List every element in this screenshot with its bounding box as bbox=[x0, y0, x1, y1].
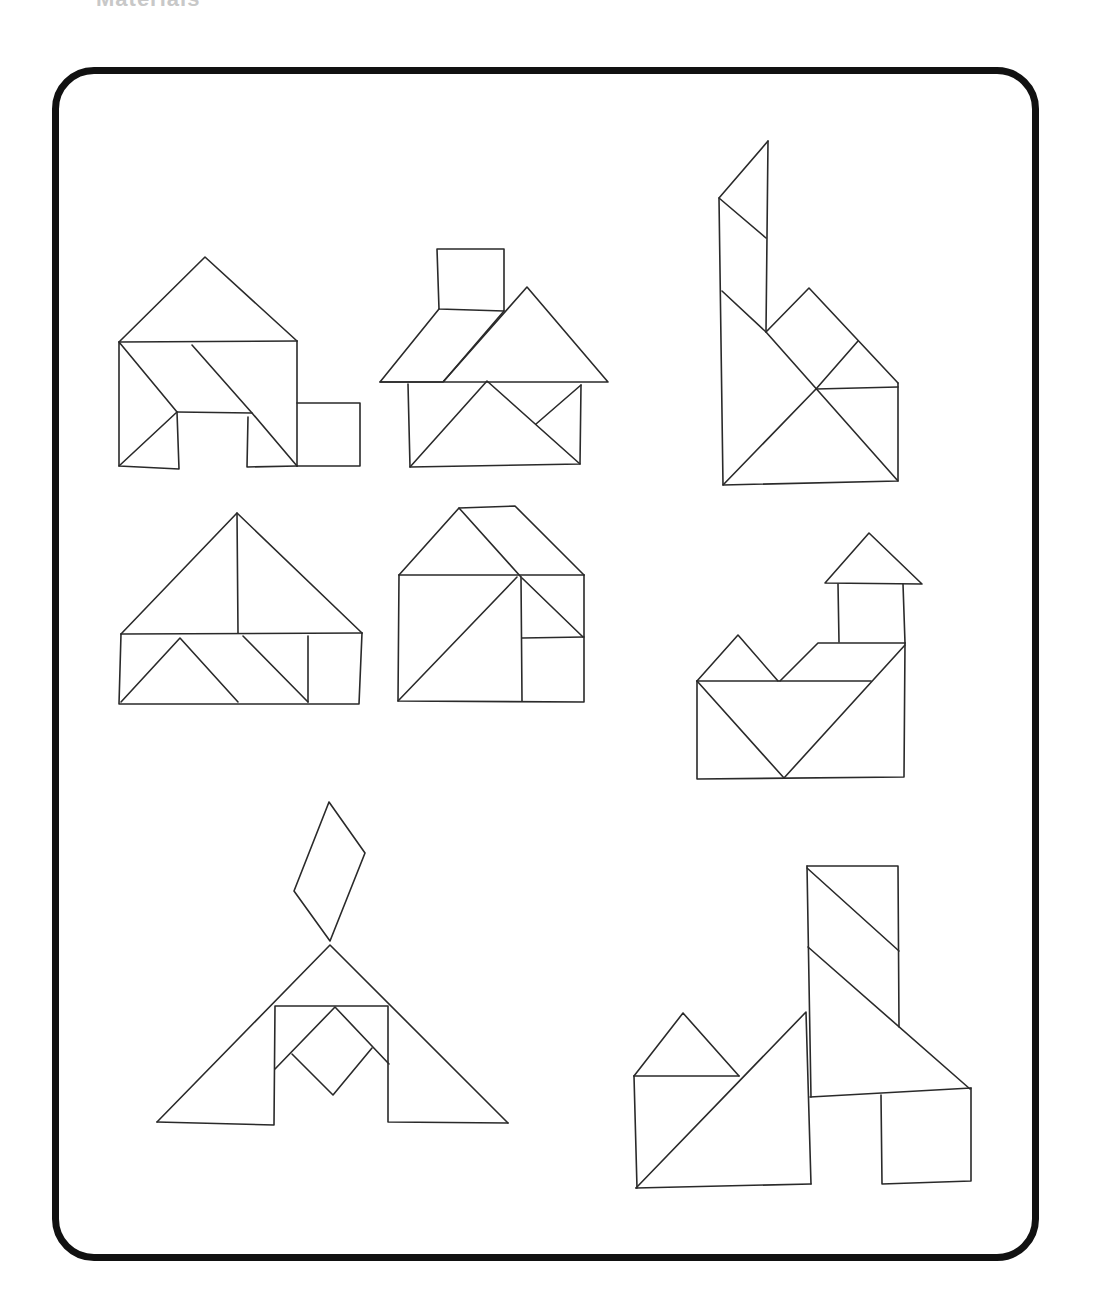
tangram-edge bbox=[634, 1076, 637, 1188]
tangram-edge bbox=[522, 578, 583, 637]
tangram-edge bbox=[810, 1088, 971, 1097]
tangram-edge bbox=[275, 1007, 389, 1069]
tangram-edge bbox=[399, 506, 584, 575]
tangram-edge bbox=[119, 257, 297, 342]
tangram-edge bbox=[410, 381, 580, 467]
tangram-edge bbox=[192, 345, 297, 466]
tangram-edge bbox=[292, 1048, 372, 1095]
tangram-edge bbox=[807, 866, 899, 1027]
tangram-edge bbox=[294, 802, 365, 941]
figure-tall-tower bbox=[719, 141, 898, 485]
figure-square-house bbox=[398, 506, 584, 702]
tangram-edge bbox=[816, 387, 898, 389]
tangram-edge bbox=[697, 645, 905, 778]
tangram-edge bbox=[157, 1006, 508, 1125]
tangram-edge bbox=[121, 638, 238, 702]
figure-tent-with-flag bbox=[157, 802, 508, 1125]
tangram-edge bbox=[119, 412, 177, 466]
tangram-edge bbox=[634, 1013, 739, 1076]
tangram-edge bbox=[766, 141, 768, 332]
tangram-edge bbox=[121, 513, 362, 634]
tangram-edge bbox=[780, 643, 905, 681]
tangram-edge bbox=[825, 533, 922, 584]
tangram-edge bbox=[522, 637, 584, 638]
figure-house-with-square-shed bbox=[119, 257, 360, 469]
tangram-edge bbox=[719, 198, 766, 238]
tangram-edge bbox=[297, 403, 360, 466]
tangram-edge bbox=[697, 635, 778, 681]
tangram-edge bbox=[121, 633, 362, 634]
tangram-edge bbox=[380, 309, 504, 382]
tangram-edge bbox=[766, 288, 898, 383]
tangram-edge bbox=[903, 584, 905, 643]
tangram-edge bbox=[808, 947, 970, 1089]
tangram-edge bbox=[247, 417, 297, 467]
tangram-edge bbox=[437, 249, 504, 311]
tangram-edge bbox=[398, 575, 584, 702]
tangram-edge bbox=[881, 1088, 971, 1184]
tangram-edge bbox=[807, 868, 899, 951]
tangram-edge bbox=[177, 412, 252, 413]
figure-house-with-tower bbox=[697, 533, 922, 779]
tangram-edge bbox=[237, 513, 238, 633]
tangram-drawing bbox=[0, 0, 1094, 1309]
tangram-edge bbox=[521, 577, 522, 701]
tangram-edge bbox=[838, 584, 839, 642]
tangram-edge bbox=[536, 385, 581, 424]
figure-wide-roof-house bbox=[119, 513, 362, 704]
tangram-edge bbox=[380, 287, 608, 382]
figure-factory-with-chimney bbox=[634, 866, 971, 1188]
tangram-edge bbox=[119, 341, 297, 342]
tangram-edge bbox=[408, 384, 581, 467]
tangram-edge bbox=[459, 508, 521, 577]
tangram-edge bbox=[722, 291, 898, 481]
tangram-edge bbox=[119, 342, 179, 469]
tangram-edge bbox=[398, 577, 517, 701]
tangram-edge bbox=[243, 636, 308, 702]
tangram-edge bbox=[157, 945, 508, 1123]
figure-house-with-chimney bbox=[380, 249, 608, 467]
tangram-edge bbox=[119, 633, 362, 704]
tangram-edge bbox=[636, 1184, 811, 1188]
